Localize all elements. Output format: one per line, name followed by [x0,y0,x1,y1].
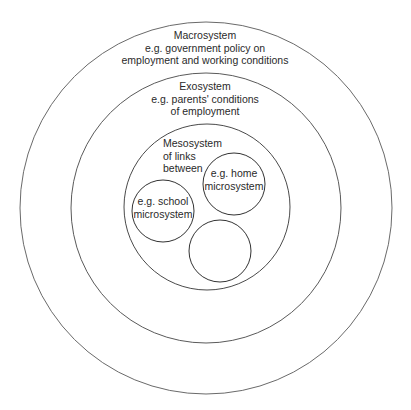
macrosystem-label: Macrosystem e.g. government policy on em… [122,29,289,67]
home-microsystem-line1: e.g. home [205,167,264,180]
unlabeled-microsystem-circle [189,220,251,282]
home-microsystem-line2: microsystem [205,180,264,193]
mesosystem-desc-1: of links [163,150,222,163]
home-microsystem-label: e.g. home microsystem [205,167,264,192]
exosystem-title: Exosystem [151,80,259,93]
exosystem-label: Exosystem e.g. parents' conditions of em… [151,80,259,118]
macrosystem-circle [20,22,392,394]
mesosystem-title: Mesosystem [163,137,222,150]
macrosystem-example-1: e.g. government policy on [122,42,289,55]
school-microsystem-line1: e.g. school [134,195,193,208]
school-microsystem-line2: microsystem [134,208,193,221]
macrosystem-example-2: employment and working conditions [122,54,289,67]
exosystem-example-1: e.g. parents' conditions [151,93,259,106]
macrosystem-title: Macrosystem [122,29,289,42]
exosystem-example-2: of employment [151,105,259,118]
school-microsystem-label: e.g. school microsystem [134,195,193,220]
